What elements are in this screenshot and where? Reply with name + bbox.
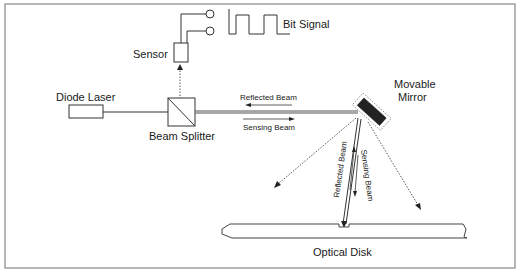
sensing-beam-vertical-label: Sensing Beam [359,149,375,202]
deflected-beam-right [368,122,418,205]
sensor-wires [181,10,214,44]
optical-disk-diagram: Bit Signal Sensor Diode Laser Beam Split… [0,0,521,275]
bit-signal-waveform [229,9,290,34]
sensing-beam-vertical-arrowhead [353,191,357,197]
sensor-label: Sensor [133,48,168,60]
reflected-beam-label: Reflected Beam [240,93,297,102]
reflected-beam-vertical-arrowhead [352,146,356,152]
diode-laser-label: Diode Laser [56,91,116,103]
movable-mirror [352,93,391,130]
horizontal-beam [195,111,358,113]
sensing-beam-label: Sensing Beam [243,123,295,132]
reflected-beam-arrowhead [245,103,251,107]
reflected-beam-vertical-label: Reflected Beam [332,140,349,198]
movable-mirror-label-line1: Movable [394,78,436,90]
deflected-beam-right-arrowhead [415,203,421,210]
sensor-box [174,43,188,62]
sensor-arrowhead [177,64,183,70]
optical-disk-label: Optical Disk [313,246,372,258]
sensing-beam-arrowhead [289,117,295,121]
beam-splitter-label: Beam Splitter [149,130,215,142]
diode-laser-box [69,105,103,118]
movable-mirror-label-line2: Mirror [398,91,427,103]
bit-signal-label: Bit Signal [283,18,329,30]
